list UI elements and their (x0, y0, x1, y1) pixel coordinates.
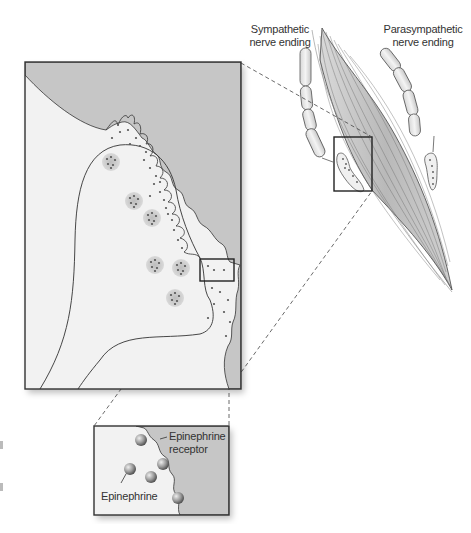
receptor-label-line1: Epinephrine (169, 430, 239, 443)
sympathetic-label: Sympathetic nerve ending (240, 23, 320, 49)
parasympathetic-label-line1: Parasympathetic (375, 23, 471, 36)
epinephrine-label: Epinephrine (101, 490, 171, 503)
epinephrine-receptor-label: Epinephrine receptor (169, 430, 239, 456)
sympathetic-label-line1: Sympathetic (240, 23, 320, 36)
clipped-text-fragment (0, 441, 3, 449)
receptor-label-line2: receptor (169, 443, 239, 456)
epinephrine-label-text: Epinephrine (101, 490, 158, 502)
clipped-text-fragment (0, 483, 3, 491)
parasympathetic-label: Parasympathetic nerve ending (375, 23, 471, 49)
sympathetic-label-line2: nerve ending (240, 36, 320, 49)
parasympathetic-label-line2: nerve ending (375, 36, 471, 49)
